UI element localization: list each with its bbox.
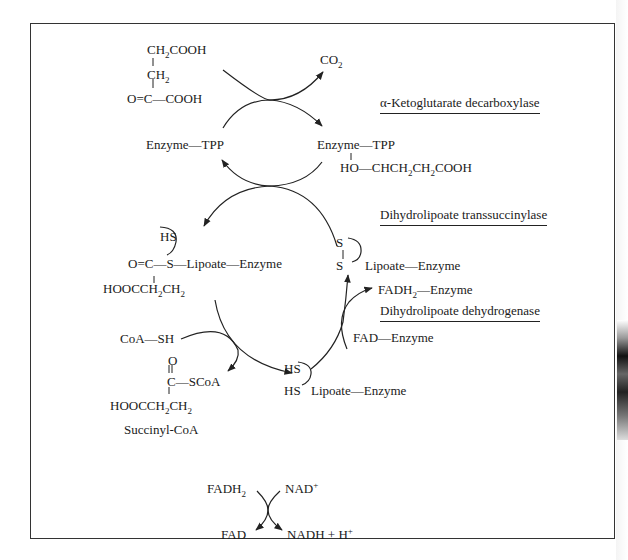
substrate-line2: CH2: [147, 67, 170, 82]
arrow-to-oxidized-lipoate: [311, 275, 348, 369]
fadh2-final: FADH2: [207, 481, 246, 496]
succinyl-coa-name: Succinyl-CoA: [124, 422, 198, 437]
reduced-lipoate-main: Lipoate—Enzyme: [311, 383, 406, 398]
tpp-left: Enzyme—TPP: [146, 137, 224, 152]
succinyl-coa-chain: HOOCCH2CH2: [110, 398, 192, 413]
arrow-to-succinyl-coa: [181, 332, 238, 371]
arrow-nad-to-nadh: [268, 491, 282, 530]
succinyl-lipoate-chain: HOOCCH2CH2: [103, 281, 185, 296]
fadh2-enzyme: FADH2—Enzyme: [378, 282, 473, 297]
arrow-fadh2-to-fad: [256, 491, 268, 530]
s-top: S: [336, 235, 343, 250]
enzyme-label-e1: α-Ketoglutarate decarboxylase: [380, 95, 540, 114]
s-s-loop: [348, 238, 361, 262]
arrow-to-enzyme-tpp-adduct: [223, 100, 322, 128]
substrate-line1: CH2COOH: [147, 42, 206, 57]
succinyl-lipoate-main: O=C—S—Lipoate—Enzyme: [128, 256, 282, 271]
tpp-adduct: HO—CHCH2CH2COOH: [340, 160, 472, 175]
hs-bottom-reduced: HS: [284, 383, 301, 398]
nad-final: NAD+: [285, 481, 318, 496]
arrow-to-co2: [223, 70, 323, 100]
arrow-to-succinyl-lipoate: [204, 186, 337, 246]
hs-label-left: HS: [160, 229, 177, 244]
coa-sh: CoA—SH: [120, 331, 174, 346]
tpp-right: Enzyme—TPP: [317, 137, 395, 152]
fad-enzyme: FAD—Enzyme: [353, 330, 434, 345]
hs-top-reduced: HS: [284, 361, 301, 376]
co2-label: CO2: [320, 52, 343, 67]
arrow-regenerate-tpp: [222, 160, 322, 186]
fad-final: FAD: [221, 527, 246, 542]
succinyl-coa-c-scoa: C—SCoA: [167, 374, 220, 389]
succinyl-coa-o: O: [168, 353, 177, 368]
s-bottom: S: [336, 258, 343, 273]
enzyme-label-e3: Dihydrolipoate dehydrogenase: [380, 303, 540, 322]
reaction-arrows: [0, 0, 628, 560]
substrate-line3: O=C—COOH: [127, 91, 202, 106]
oxidized-lipoate-main: Lipoate—Enzyme: [365, 258, 460, 273]
nadh-final: NADH + H+: [287, 527, 353, 542]
enzyme-label-e2: Dihydrolipoate transsuccinylase: [380, 207, 547, 226]
